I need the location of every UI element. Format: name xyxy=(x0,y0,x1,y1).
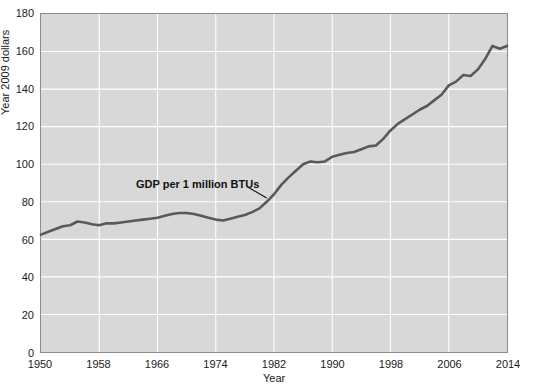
x-tick-label: 1950 xyxy=(28,358,52,370)
x-tick-label: 1974 xyxy=(203,358,227,370)
y-tick-label: 60 xyxy=(0,234,34,246)
x-tick-label: 1982 xyxy=(262,358,286,370)
annotation-leader-line xyxy=(41,14,507,352)
y-axis-title: Year 2009 dollars xyxy=(0,30,11,115)
annotation-label-gdp-per-1-million-btus: GDP per 1 million BTUs xyxy=(136,178,259,190)
x-tick-label: 2014 xyxy=(496,358,520,370)
plot-area xyxy=(40,13,508,353)
y-tick-label: 120 xyxy=(0,120,34,132)
x-tick-label: 1990 xyxy=(320,358,344,370)
x-axis-title: Year xyxy=(263,372,285,384)
y-tick-label: 100 xyxy=(0,158,34,170)
x-tick-label: 2006 xyxy=(437,358,461,370)
x-tick-label: 1958 xyxy=(86,358,110,370)
y-tick-label: 180 xyxy=(0,7,34,19)
x-tick-label: 1966 xyxy=(145,358,169,370)
x-tick-label: 1998 xyxy=(379,358,403,370)
chart-root: 020406080100120140160180 195019581966197… xyxy=(0,0,533,390)
y-tick-label: 20 xyxy=(0,309,34,321)
y-tick-label: 80 xyxy=(0,196,34,208)
y-tick-label: 40 xyxy=(0,271,34,283)
